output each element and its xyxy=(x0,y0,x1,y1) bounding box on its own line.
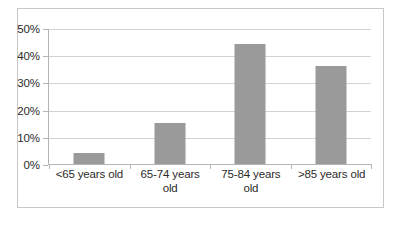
bar-slot-1 xyxy=(49,29,130,164)
y-axis-label-20: 20% xyxy=(17,105,40,117)
bar-slot-2 xyxy=(130,29,211,164)
bar-over-85[interactable] xyxy=(315,66,346,164)
y-axis-label-50: 50% xyxy=(17,23,40,35)
y-axis-label-30: 30% xyxy=(17,77,40,89)
category-label-under-65: <65 years old xyxy=(49,167,130,195)
bar-65-74[interactable] xyxy=(154,123,185,164)
bar-slot-4 xyxy=(291,29,372,164)
bar-under-65[interactable] xyxy=(74,153,105,164)
category-label-65-74: 65-74 years old xyxy=(130,167,211,195)
y-tick-40 xyxy=(43,56,48,57)
category-label-over-85: >85 years old xyxy=(291,167,372,195)
y-tick-50 xyxy=(43,29,48,30)
bar-slot-3 xyxy=(210,29,291,164)
category-axis-labels: <65 years old 65-74 years old 75-84 year… xyxy=(49,167,372,195)
bars-layer xyxy=(49,29,371,164)
y-axis-label-10: 10% xyxy=(17,132,40,144)
y-axis-label-40: 40% xyxy=(17,50,40,62)
y-axis-label-0: 0% xyxy=(24,159,40,171)
plot-area: 50% 40% 30% 20% 10% 0% xyxy=(48,29,371,165)
category-label-75-84: 75-84 years old xyxy=(211,167,292,195)
y-tick-30 xyxy=(43,83,48,84)
y-tick-20 xyxy=(43,111,48,112)
chart-frame: 50% 40% 30% 20% 10% 0% xyxy=(17,8,384,208)
bar-75-84[interactable] xyxy=(235,44,266,164)
y-tick-10 xyxy=(43,138,48,139)
y-tick-0 xyxy=(43,165,48,166)
